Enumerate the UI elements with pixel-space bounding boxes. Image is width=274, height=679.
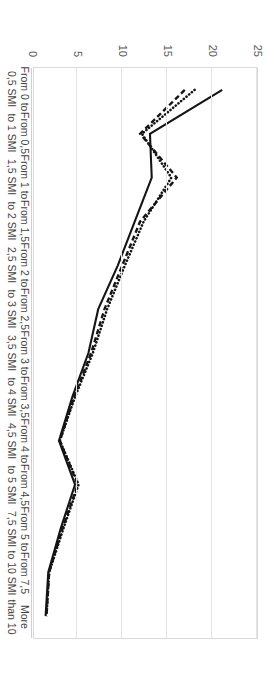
gridline-15 <box>166 68 167 638</box>
value-tick-label: 5 <box>72 51 84 57</box>
gridline-25 <box>256 68 257 638</box>
series-line-dashed <box>46 90 184 616</box>
category-label-line: More <box>18 586 31 648</box>
plot-area <box>33 67 258 639</box>
value-tick-label: 15 <box>162 45 174 57</box>
category-tick-label: Morethan 10 <box>5 586 31 648</box>
value-tick-label: 25 <box>252 45 264 57</box>
series-line-solid <box>46 90 223 616</box>
gridline-5 <box>76 68 77 638</box>
value-axis: 0510152025 <box>33 0 258 63</box>
value-tick-label: 10 <box>117 45 129 57</box>
chart-rotation-wrapper: 0510152025 From 0 to0,5 SMIFrom 0,5to 1 … <box>0 0 274 679</box>
category-label-line: than 10 <box>5 586 18 648</box>
gridline-10 <box>121 68 122 638</box>
gridline-20 <box>211 68 212 638</box>
series-layer <box>34 68 257 638</box>
category-axis: From 0 to0,5 SMIFrom 0,5to 1 SMIFrom 1 t… <box>0 67 31 639</box>
value-tick-label: 0 <box>27 51 39 57</box>
line-chart-figure: 0510152025 From 0 to0,5 SMIFrom 0,5to 1 … <box>0 0 274 679</box>
value-tick-label: 20 <box>207 45 219 57</box>
gridline-0 <box>31 68 32 638</box>
